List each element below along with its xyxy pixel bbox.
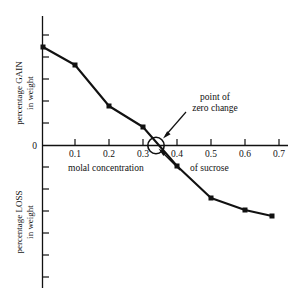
y-axis-label-loss-line1: percentage LOSS [14,190,24,253]
x-axis-title-right: of sucrose [190,163,229,173]
annotation-line1: point of [200,92,231,102]
annotation-leader-line [166,112,186,135]
y-axis-label-gain-line2: in weight [25,76,35,110]
data-point [107,104,112,109]
x-tick-label: 0.2 [103,149,115,159]
x-tick-label: 0.5 [205,149,217,159]
x-axis-title-left: molal concentration [68,163,144,173]
data-point [209,196,214,201]
data-point-markers [41,45,275,219]
x-tick-label: 0.6 [239,149,251,159]
data-point [73,63,78,68]
y-axis-label-loss-line2: in weight [25,205,35,239]
x-tick-label: 0.7 [273,149,285,159]
chart-plot-area: 0.1 0.2 0.3 0.4 0.5 0.6 0.7 0 molal conc… [0,0,294,294]
y-axis-label-gain-line1: percentage GAIN [14,61,24,125]
y-axis-ticks-loss [43,167,50,277]
x-tick-label: 0.3 [137,149,149,159]
data-point [41,45,46,50]
data-curve [43,47,272,216]
annotation-arrowhead-icon [163,131,171,138]
x-axis-ticks [75,139,279,146]
annotation-line2: zero change [192,103,238,113]
data-point [270,214,275,219]
data-point [141,125,146,130]
x-tick-label: 0.4 [171,149,183,159]
data-point [243,208,248,213]
x-tick-label: 0.1 [69,149,81,159]
chart-container: 0.1 0.2 0.3 0.4 0.5 0.6 0.7 0 molal conc… [0,0,294,294]
y-zero-label: 0 [32,141,37,151]
